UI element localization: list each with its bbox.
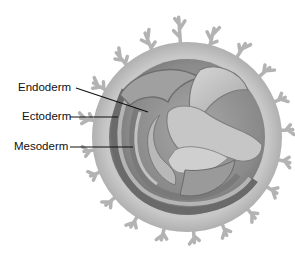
label-endoderm: Endoderm bbox=[18, 82, 71, 94]
label-ectoderm: Ectoderm bbox=[22, 111, 71, 123]
embryo-illustration bbox=[0, 0, 295, 257]
label-mesoderm: Mesoderm bbox=[14, 141, 68, 153]
embryo-diagram: Endoderm Ectoderm Mesoderm bbox=[0, 0, 295, 257]
